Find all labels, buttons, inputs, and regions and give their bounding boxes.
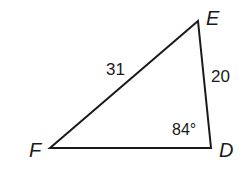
angle-label-d: 84° bbox=[172, 122, 196, 138]
triangle-diagram: E D F 31 20 84° bbox=[0, 0, 243, 172]
vertex-label-f: F bbox=[29, 140, 41, 160]
side-label-ed: 20 bbox=[211, 68, 230, 85]
side-label-fe: 31 bbox=[106, 61, 125, 78]
vertex-label-d: D bbox=[219, 140, 233, 160]
vertex-label-e: E bbox=[206, 8, 219, 28]
